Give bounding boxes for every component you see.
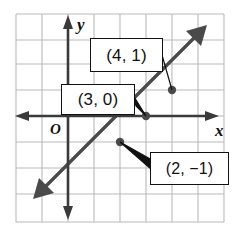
coordinate-plane-figure: (4, 1) (3, 0) (2, −1) y x O: [0, 0, 244, 233]
origin-label: O: [50, 121, 61, 138]
callout-point-2-minus-1: (2, −1): [150, 152, 229, 185]
graph-canvas: [0, 0, 244, 233]
y-axis-label: y: [77, 15, 85, 35]
callout-point-4-1: (4, 1): [90, 38, 163, 72]
callout-point-3-0: (3, 0): [61, 84, 135, 115]
x-axis-label: x: [215, 121, 224, 141]
